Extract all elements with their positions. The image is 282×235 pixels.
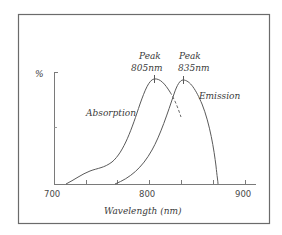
x-tick-700: 700 [44, 189, 60, 199]
peak-805-label-line1: Peak [138, 51, 161, 61]
spectrum-chart: % Peak 805nm Peak 835nm Emission Absorpt… [0, 0, 282, 235]
absorption-curve [66, 79, 170, 184]
x-axis-label: Wavelength (nm) [104, 206, 182, 216]
absorption-label: Absorption [85, 108, 136, 118]
emission-label: Emission [198, 91, 241, 101]
peak-805-label-line2: 805nm [131, 63, 163, 73]
peak-835-label-line1: Peak [178, 51, 201, 61]
x-tick-800: 800 [139, 189, 155, 199]
x-axis-ticks [87, 180, 246, 185]
peak-835-label-line2: 835nm [178, 63, 210, 73]
absorption-curve-dashed [170, 92, 181, 117]
y-axis-label: % [35, 69, 44, 79]
x-tick-900: 900 [235, 189, 251, 199]
